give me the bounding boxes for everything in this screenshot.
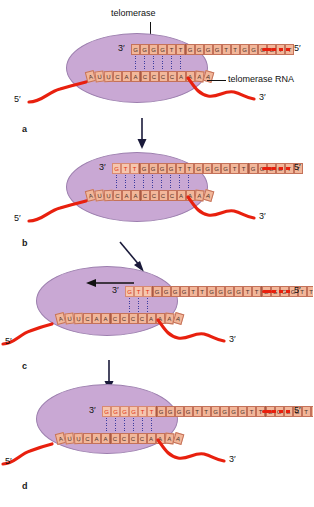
dna-backbone-left-b xyxy=(26,195,106,225)
nt: C xyxy=(138,433,147,444)
nt: G xyxy=(203,163,212,174)
pair xyxy=(120,418,129,433)
nt: C xyxy=(150,71,159,82)
base-pairs-b xyxy=(112,175,193,190)
nt: G xyxy=(194,163,203,174)
right-3prime-label-b: 3′ xyxy=(259,211,266,221)
nt: C xyxy=(150,190,159,201)
nt: G xyxy=(225,286,234,297)
nt-new: T xyxy=(121,163,130,174)
nt: C xyxy=(129,433,138,444)
pair xyxy=(143,298,152,313)
nt: T xyxy=(307,286,314,297)
panel-letter-d: d xyxy=(22,481,28,491)
panel-c: 3′ G T T G G G G T T G G G G T T G G G G… xyxy=(0,266,313,374)
nt: G xyxy=(131,44,140,55)
dna-backbone-right-squig-a xyxy=(186,74,266,108)
pair xyxy=(121,175,130,190)
panel-letter-a: a xyxy=(22,124,27,134)
nt: G xyxy=(186,44,195,55)
left-5prime-label-b: 5′ xyxy=(14,213,21,223)
dna-backbone-right-a xyxy=(262,48,272,51)
nt: C xyxy=(83,313,92,324)
nt: G xyxy=(220,406,229,417)
nt: G xyxy=(216,286,225,297)
nt: T xyxy=(239,163,248,174)
nt: A xyxy=(147,313,156,324)
nt: G xyxy=(158,163,167,174)
nt: C xyxy=(168,190,177,201)
panel-letter-c: c xyxy=(22,361,27,371)
nt: G xyxy=(167,163,176,174)
nt: T xyxy=(176,44,185,55)
nt: T xyxy=(167,44,176,55)
nt: A xyxy=(177,71,186,82)
nt: C xyxy=(120,313,129,324)
nt: C xyxy=(113,190,122,201)
nt: G xyxy=(175,406,184,417)
nt: T xyxy=(198,286,207,297)
pair xyxy=(148,175,157,190)
nt: T xyxy=(252,286,261,297)
nt: A xyxy=(147,433,156,444)
dna-backbone-right-d xyxy=(262,410,272,413)
nt: G xyxy=(157,406,166,417)
pair xyxy=(102,418,111,433)
nt: G xyxy=(166,406,175,417)
nt: T xyxy=(311,406,314,417)
nt: G xyxy=(162,286,171,297)
pair xyxy=(176,56,185,71)
dna-dashed-right-c xyxy=(272,290,292,293)
nt-new: G xyxy=(111,406,120,417)
pair xyxy=(130,175,139,190)
nt: A xyxy=(92,433,101,444)
nt: C xyxy=(83,433,92,444)
pair xyxy=(175,175,184,190)
nt: T xyxy=(230,163,239,174)
nt: T xyxy=(189,286,198,297)
dna-backbone-right-c xyxy=(262,290,272,293)
nt: G xyxy=(234,286,243,297)
pair xyxy=(129,418,138,433)
nt: G xyxy=(213,44,222,55)
dna-3prime-label-a: 3′ xyxy=(118,43,125,53)
nt: A xyxy=(177,190,186,201)
nt-new: T xyxy=(143,286,152,297)
panel-letter-b: b xyxy=(22,238,28,248)
dna-dashed-right-d xyxy=(272,410,292,413)
dna-5prime-label-b: 5′ xyxy=(294,162,301,172)
right-3prime-label-d: 3′ xyxy=(229,454,236,464)
nt: G xyxy=(140,163,149,174)
nt: T xyxy=(243,286,252,297)
left-5prime-label-c: 5′ xyxy=(5,336,12,346)
nt: A xyxy=(92,313,101,324)
nt-new: T xyxy=(147,406,156,417)
nt: T xyxy=(247,406,256,417)
nt: C xyxy=(159,190,168,201)
nt: C xyxy=(141,71,150,82)
pair xyxy=(112,175,121,190)
dna-dashed-right-a xyxy=(272,48,292,51)
nt: A xyxy=(122,71,131,82)
right-3prime-label-a: 3′ xyxy=(259,92,266,102)
nt-new: G xyxy=(112,163,121,174)
pair xyxy=(134,298,143,313)
dna-5prime-label-c: 5′ xyxy=(294,285,301,295)
nt: C xyxy=(113,71,122,82)
panel-a: telomerase 3′ G G G G T T G G G G T T G … xyxy=(0,0,313,140)
nt: G xyxy=(153,286,162,297)
nt: A xyxy=(131,190,140,201)
dna-3prime-label-d: 3′ xyxy=(89,405,96,415)
nt: C xyxy=(159,71,168,82)
nt: T xyxy=(231,44,240,55)
left-5prime-label-a: 5′ xyxy=(14,94,21,104)
nt: C xyxy=(129,313,138,324)
nt: C xyxy=(111,433,120,444)
nt: G xyxy=(207,286,216,297)
pair xyxy=(147,418,156,433)
dna-5prime-label-a: 5′ xyxy=(294,43,301,53)
right-3prime-label-c: 3′ xyxy=(229,334,236,344)
nt: T xyxy=(176,163,185,174)
nt-new: G xyxy=(129,406,138,417)
nt: G xyxy=(240,44,249,55)
